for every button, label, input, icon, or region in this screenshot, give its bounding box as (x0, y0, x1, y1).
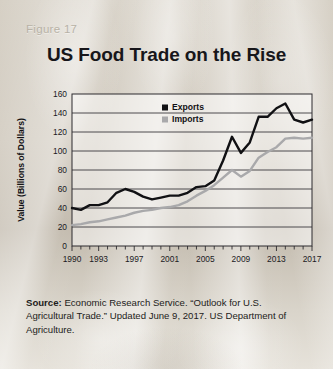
legend-swatch-imports (162, 117, 168, 123)
legend-swatch-exports (162, 105, 168, 111)
y-tick-label: 20 (58, 222, 68, 232)
source-note: Source: Economic Research Service. “Outl… (26, 296, 308, 336)
y-tick-label: 40 (58, 203, 68, 213)
y-tick-label: 140 (53, 108, 67, 118)
x-axis-ticks (72, 246, 312, 251)
x-tick-label: 1990 (63, 254, 82, 264)
x-tick-label: 1993 (89, 254, 108, 264)
line-chart: 020406080100120140160 199019931997200120… (12, 88, 324, 283)
y-axis-tick-labels: 020406080100120140160 (53, 89, 67, 251)
y-tick-label: 0 (62, 241, 67, 251)
x-tick-label: 2005 (196, 254, 215, 264)
x-tick-label: 2013 (267, 254, 286, 264)
x-tick-label: 1997 (125, 254, 144, 264)
figure-card: Figure 17 US Food Trade on the Rise 0204… (0, 0, 333, 369)
source-text: Economic Research Service. “Outlook for … (26, 297, 286, 335)
source-label: Source: (26, 297, 62, 308)
x-tick-label: 2001 (160, 254, 179, 264)
chart-title: US Food Trade on the Rise (0, 44, 333, 66)
chart-container: 020406080100120140160 199019931997200120… (12, 88, 324, 283)
y-axis-title: Value (Billions of Dollars) (16, 118, 26, 222)
y-axis-title-text: Value (Billions of Dollars) (16, 118, 26, 222)
figure-number-label: Figure 17 (26, 23, 77, 35)
legend-label-exports: Exports (172, 102, 204, 112)
legend-label-imports: Imports (172, 114, 204, 124)
x-tick-label: 2017 (303, 254, 322, 264)
x-axis-tick-labels: 19901993199720012005200920132017 (63, 254, 322, 264)
x-tick-label: 2009 (232, 254, 251, 264)
y-tick-label: 60 (58, 184, 68, 194)
y-tick-label: 120 (53, 127, 67, 137)
y-tick-label: 160 (53, 89, 67, 99)
y-tick-label: 80 (58, 165, 68, 175)
y-tick-label: 100 (53, 146, 67, 156)
